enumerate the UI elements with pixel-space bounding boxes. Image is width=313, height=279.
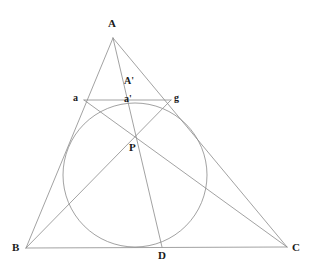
- line-group: [26, 38, 287, 248]
- point-label-A: A: [108, 18, 116, 29]
- point-label-D: D: [158, 250, 166, 261]
- geometry-figure: A A' a a' g P B C D: [0, 0, 313, 279]
- point-label-a-prime: a': [124, 94, 132, 104]
- point-label-g: g: [174, 93, 179, 103]
- point-label-A-prime: A': [124, 76, 134, 86]
- point-label-P: P: [129, 142, 136, 153]
- segment-side-AC: [113, 38, 287, 247]
- point-label-a: a: [73, 93, 78, 103]
- segment-cevian-C-to-a: [84, 100, 287, 247]
- geometry-canvas: [0, 0, 313, 279]
- point-label-C: C: [292, 242, 300, 253]
- segment-cevian-B-to-g: [26, 100, 171, 248]
- segment-cevian-AD: [113, 38, 162, 247]
- segment-side-BC: [26, 247, 287, 248]
- point-label-B: B: [12, 242, 19, 253]
- segment-side-AB: [26, 38, 113, 248]
